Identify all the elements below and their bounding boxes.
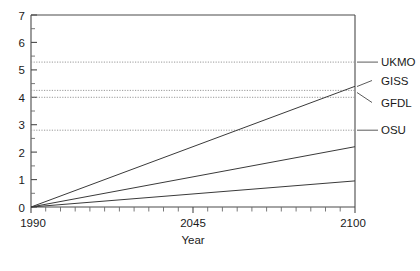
series-line-lower <box>31 181 355 207</box>
leader-giss <box>357 81 372 87</box>
x-axis-ticks <box>31 207 355 213</box>
x-label-2045: 2045 <box>180 217 206 229</box>
y-label-0: 0 <box>19 202 25 214</box>
y-label-1: 1 <box>19 174 25 186</box>
chart-figure: 7 6 5 4 3 2 1 0 1990 2045 <box>0 0 420 271</box>
y-axis-tick-labels: 7 6 5 4 3 2 1 0 <box>19 10 26 214</box>
y-label-5: 5 <box>19 64 25 76</box>
y-axis-ticks <box>31 15 37 207</box>
line-chart-svg: 7 6 5 4 3 2 1 0 1990 2045 <box>0 0 420 271</box>
series-line-middle <box>31 147 355 207</box>
x-label-1990: 1990 <box>20 217 46 229</box>
series-label-ukmo: UKMO <box>381 56 416 68</box>
y-label-4: 4 <box>19 92 26 104</box>
reference-lines <box>31 62 355 130</box>
annotation-leaders <box>357 62 378 130</box>
series-label-gfdl: GFDL <box>381 97 412 109</box>
y-label-6: 6 <box>19 37 25 49</box>
leader-gfdl <box>357 93 372 103</box>
plot-frame <box>31 15 355 207</box>
series-label-giss: GISS <box>381 75 409 87</box>
annotation-labels: UKMO GISS GFDL OSU <box>381 56 416 136</box>
series-label-osu: OSU <box>381 124 406 136</box>
series-lines <box>31 86 355 207</box>
y-label-7: 7 <box>19 10 25 22</box>
x-axis-title: Year <box>181 234 204 246</box>
series-line-upper <box>31 86 355 207</box>
x-axis-tick-labels: 1990 2045 2100 <box>20 217 366 229</box>
y-label-3: 3 <box>19 119 25 131</box>
x-label-2100: 2100 <box>340 217 366 229</box>
y-label-2: 2 <box>19 147 25 159</box>
